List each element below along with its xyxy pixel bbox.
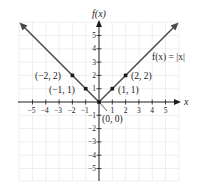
svg-text:2: 2 bbox=[124, 106, 128, 115]
svg-text:−2: −2 bbox=[88, 124, 96, 133]
point-neg2-2 bbox=[71, 74, 75, 78]
svg-text:3: 3 bbox=[137, 106, 141, 115]
label-neg1-1: (−1, 1) bbox=[49, 85, 75, 96]
label-1-1: (1, 1) bbox=[118, 85, 139, 96]
svg-text:2: 2 bbox=[92, 71, 96, 80]
label-neg2-2: (−2, 2) bbox=[35, 71, 61, 82]
svg-text:−4: −4 bbox=[88, 151, 96, 160]
svg-text:−5: −5 bbox=[28, 106, 36, 115]
svg-text:−3: −3 bbox=[88, 137, 96, 146]
svg-text:−4: −4 bbox=[41, 106, 49, 115]
chart-svg: −5 −4 −3 −2 −1 1 2 3 4 5 5 4 3 2 1 −1 −2… bbox=[0, 0, 204, 188]
svg-text:5: 5 bbox=[164, 106, 168, 115]
svg-text:1: 1 bbox=[92, 84, 96, 93]
point-2-2 bbox=[124, 74, 128, 78]
svg-text:−3: −3 bbox=[54, 106, 62, 115]
absolute-value-graph: −5 −4 −3 −2 −1 1 2 3 4 5 5 4 3 2 1 −1 −2… bbox=[0, 0, 204, 188]
svg-text:4: 4 bbox=[150, 106, 154, 115]
svg-text:4: 4 bbox=[92, 44, 96, 53]
y-axis-label: f(x) bbox=[92, 8, 107, 20]
origin-leader-line bbox=[100, 103, 107, 111]
function-label: f(x) = |x| bbox=[152, 52, 185, 63]
svg-text:5: 5 bbox=[92, 31, 96, 40]
svg-text:−1: −1 bbox=[88, 111, 96, 120]
svg-text:−2: −2 bbox=[67, 106, 75, 115]
point-1-1 bbox=[111, 87, 115, 91]
x-tick-labels: −5 −4 −3 −2 −1 1 2 3 4 5 bbox=[28, 106, 168, 115]
svg-text:3: 3 bbox=[92, 58, 96, 67]
x-axis-arrow-icon bbox=[174, 99, 181, 105]
y-axis-arrow-icon bbox=[96, 20, 102, 27]
x-axis-label: x bbox=[183, 96, 189, 107]
label-origin: (0, 0) bbox=[102, 114, 123, 125]
svg-text:−5: −5 bbox=[88, 164, 96, 173]
label-2-2: (2, 2) bbox=[131, 71, 152, 82]
point-neg1-1 bbox=[84, 87, 88, 91]
